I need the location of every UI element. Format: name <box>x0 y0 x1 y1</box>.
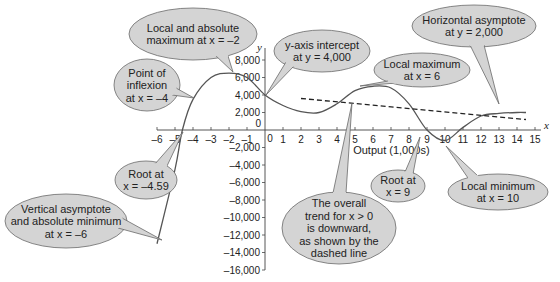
callout-text: at x = –4 <box>126 92 169 104</box>
y-tick-label: –16,000 <box>224 265 261 276</box>
callout-text: y-axis intercept <box>285 39 359 51</box>
callout-inflexion: Point ofinflexionat x = –4 <box>114 59 194 111</box>
callout-text: at y = 2,000 <box>445 26 503 38</box>
x-tick-label: 13 <box>493 134 505 145</box>
x-tick-label: 15 <box>529 134 541 145</box>
y-axis-name: y <box>256 41 262 53</box>
y-tick-label: 2,000 <box>235 107 260 118</box>
x-tick-label: 14 <box>511 134 523 145</box>
callout-text: maximum at x = –2 <box>146 34 239 46</box>
x-tick-label: 2 <box>298 134 304 145</box>
x-tick-label: –3 <box>205 134 217 145</box>
x-tick-label: –6 <box>151 134 163 145</box>
callout-local-min: Local minimumat x = 10 <box>446 146 548 210</box>
y-tick-label: –12,000 <box>224 230 261 241</box>
callout-local-max: Local maximumat x = 6 <box>360 53 470 87</box>
y-origin-label: 0 <box>255 118 261 129</box>
y-tick-label: 8,000 <box>235 55 260 66</box>
callout-text: x = –4.59 <box>123 180 169 192</box>
callout-text: trend for x > 0 <box>305 210 373 222</box>
callout-text: as shown by the <box>299 235 379 247</box>
annotated-function-chart: –6–5–4–3–2–112345678910111213141508,0006… <box>0 0 560 282</box>
x-tick-label: 12 <box>475 134 487 145</box>
callout-vert-asymptote: Vertical asymptoteand absolute minimumat… <box>5 194 162 248</box>
callout-text: dashed line <box>311 247 367 259</box>
callout-text: The overall <box>312 197 366 209</box>
callout-text: Horizontal asymptote <box>422 14 525 26</box>
callout-text: Vertical asymptote <box>21 203 111 215</box>
callout-text: at y = 4,000 <box>293 51 351 63</box>
callout-text: and absolute minimum <box>11 215 122 227</box>
x-axis-name: x <box>543 119 549 131</box>
callout-text: at x = –6 <box>45 228 88 240</box>
y-tick-label: –8,000 <box>229 195 260 206</box>
callout-text: at x = 6 <box>404 70 440 82</box>
x-tick-label: 11 <box>458 134 469 145</box>
callout-text: is downward, <box>307 222 371 234</box>
callout-text: Local maximum <box>383 58 460 70</box>
y-tick-label: –14,000 <box>224 247 261 258</box>
x-origin-label: 0 <box>267 133 273 144</box>
trend-dashed-line <box>301 99 526 120</box>
y-tick-label: 4,000 <box>235 90 260 101</box>
callout-text: Local and absolute <box>147 22 239 34</box>
callout-text: Root at <box>380 174 415 186</box>
y-tick-label: –4,000 <box>229 160 260 171</box>
callout-text: at x = 10 <box>477 192 520 204</box>
callout-text: x = 9 <box>386 186 410 198</box>
callout-y-intercept: y-axis interceptat y = 4,000 <box>266 30 370 95</box>
callout-text: Point of <box>128 67 166 79</box>
callout-text: inflexion <box>127 79 167 91</box>
x-tick-label: 1 <box>280 134 286 145</box>
x-tick-label: –4 <box>187 134 199 145</box>
x-tick-label: 4 <box>334 134 340 145</box>
x-tick-label: 3 <box>316 134 322 145</box>
callout-text: Local minimum <box>461 180 535 192</box>
y-tick-label: –10,000 <box>224 212 261 223</box>
callout-text: Root at <box>128 168 163 180</box>
y-tick-label: –6,000 <box>229 177 260 188</box>
y-tick-label: –2,000 <box>229 142 260 153</box>
